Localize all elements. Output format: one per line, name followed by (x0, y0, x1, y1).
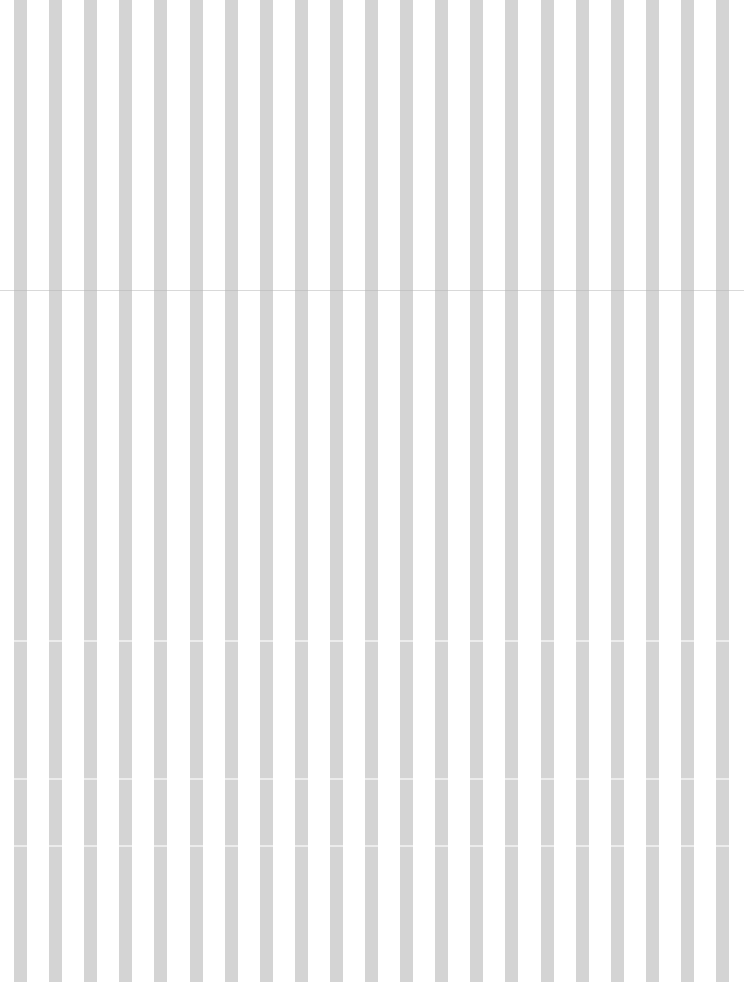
seam-line (0, 640, 744, 642)
stripe (14, 0, 27, 982)
stripe (225, 0, 238, 982)
stripe (681, 0, 694, 982)
stripe (330, 0, 343, 982)
stripe (154, 0, 167, 982)
stripe (541, 0, 554, 982)
stripe (505, 0, 518, 982)
stripe (84, 0, 97, 982)
stripe (260, 0, 273, 982)
seam-line (0, 290, 744, 291)
seam-line (0, 845, 744, 847)
stripe (49, 0, 62, 982)
stripe (190, 0, 203, 982)
stripe (365, 0, 378, 982)
stripe (119, 0, 132, 982)
stripe (576, 0, 589, 982)
stripe (646, 0, 659, 982)
stripe (611, 0, 624, 982)
stripe (435, 0, 448, 982)
stripe (295, 0, 308, 982)
stripe (470, 0, 483, 982)
stripe (400, 0, 413, 982)
stripe (716, 0, 729, 982)
seam-line (0, 778, 744, 780)
